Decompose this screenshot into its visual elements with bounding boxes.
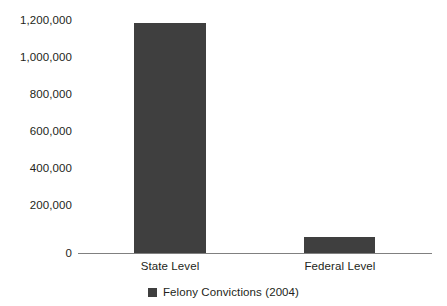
legend-label: Felony Convictions (2004) [163, 286, 299, 299]
y-axis-tick-labels: 1,200,000 1,000,000 800,000 600,000 400,… [0, 0, 72, 306]
y-axis-tick-label: 0 [0, 247, 72, 259]
y-axis-tick-label: 1,200,000 [0, 14, 72, 26]
chart-legend: Felony Convictions (2004) [0, 286, 447, 299]
y-axis-tick-label: 400,000 [0, 162, 72, 174]
bar-state-level [134, 23, 206, 253]
x-axis-label-federal-level: Federal Level [268, 259, 412, 273]
plot-area [78, 0, 432, 253]
y-axis-tick-label: 1,000,000 [0, 51, 72, 63]
x-axis-label-state-level: State Level [98, 259, 242, 273]
y-axis-tick-label: 600,000 [0, 125, 72, 137]
y-axis-tick-label: 800,000 [0, 88, 72, 100]
legend-swatch-icon [148, 288, 157, 297]
y-axis-tick-label: 200,000 [0, 199, 72, 211]
bar-federal-level [304, 237, 375, 253]
bar-chart: 1,200,000 1,000,000 800,000 600,000 400,… [0, 0, 447, 306]
x-axis-baseline [78, 253, 432, 254]
